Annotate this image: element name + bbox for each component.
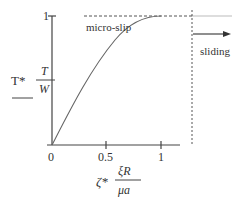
- sliding-arrow-icon: [223, 31, 231, 37]
- x-tick-label-1: 1: [158, 151, 164, 163]
- x-tick-label-0: 0: [48, 151, 54, 163]
- x-numerator: ξR: [118, 165, 130, 177]
- x-tick-label-0.5: 0.5: [98, 151, 113, 163]
- micro-slip-curve: [52, 16, 161, 145]
- x-symbol: ζ*: [96, 175, 108, 188]
- sliding-label: sliding: [200, 46, 230, 57]
- micro-slip-label: micro-slip: [86, 22, 131, 33]
- x-denominator: μa: [118, 184, 130, 196]
- y-tick-label-1: 1: [43, 10, 49, 22]
- y-symbol: T*: [11, 74, 25, 87]
- y-numerator: T: [41, 65, 48, 77]
- y-denominator: W: [39, 83, 49, 95]
